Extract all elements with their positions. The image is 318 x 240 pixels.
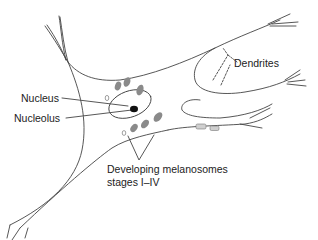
melanosomes-label: Developing melanosomes bbox=[107, 163, 228, 175]
dendrites-label: Dendrites bbox=[234, 57, 279, 69]
nucleus-label: Nucleus bbox=[21, 92, 59, 104]
dendrite-right-lower bbox=[182, 100, 272, 118]
melanosomes-stages-label: stages I–IV bbox=[107, 176, 160, 188]
melanosome-stage-1-lower bbox=[122, 131, 126, 136]
melanosomes-upper bbox=[114, 76, 145, 96]
melanosomes-lower bbox=[129, 111, 164, 134]
melanosome-stage-1 bbox=[105, 95, 109, 100]
dendrite-right-loop bbox=[194, 48, 300, 94]
cell-outline-left bbox=[10, 62, 84, 225]
nucleolus bbox=[130, 106, 138, 112]
melanosomes-in-dendrite bbox=[196, 124, 219, 131]
nucleolus-label: Nucleolus bbox=[14, 112, 60, 124]
nucleolus-leader bbox=[66, 110, 132, 118]
cell-outline-top bbox=[68, 20, 280, 80]
nucleus-leader bbox=[62, 98, 128, 106]
